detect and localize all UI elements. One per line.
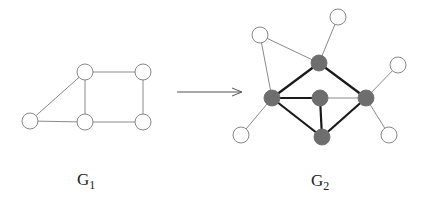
node-g1-e [135,114,151,130]
node-g2-g4 [358,90,374,106]
edge-g2-g4-g5 [322,98,366,137]
edge-g2-g1-g2 [272,63,319,98]
edge-g2-w1-g2 [260,35,272,98]
node-g1-a [22,113,38,129]
graph-label-g1-sub: 1 [89,178,95,192]
node-g2-g2 [264,90,280,106]
node-g2-g1 [311,55,327,71]
nodes-layer [22,9,406,145]
graph-label-g1-base: G [77,170,89,189]
node-g2-w3 [390,57,406,73]
graph-label-g1: G1 [77,171,95,191]
graph-label-g2-base: G [311,171,323,190]
node-g2-w4 [233,127,249,143]
graph-label-g2: G2 [311,172,329,192]
diagram-canvas [0,0,425,201]
node-g2-w5 [381,127,397,143]
node-g1-d [77,114,93,130]
edge-g1-a-b [30,72,85,121]
node-g2-g3 [312,90,328,106]
transformation-arrow [177,88,242,96]
node-g2-w2 [330,9,346,25]
edge-g2-w1-g1 [260,35,319,63]
node-g2-w1 [252,27,268,43]
graph-label-g2-sub: 2 [323,179,329,193]
node-g1-b [77,64,93,80]
node-g1-c [135,64,151,80]
node-g2-g5 [314,129,330,145]
